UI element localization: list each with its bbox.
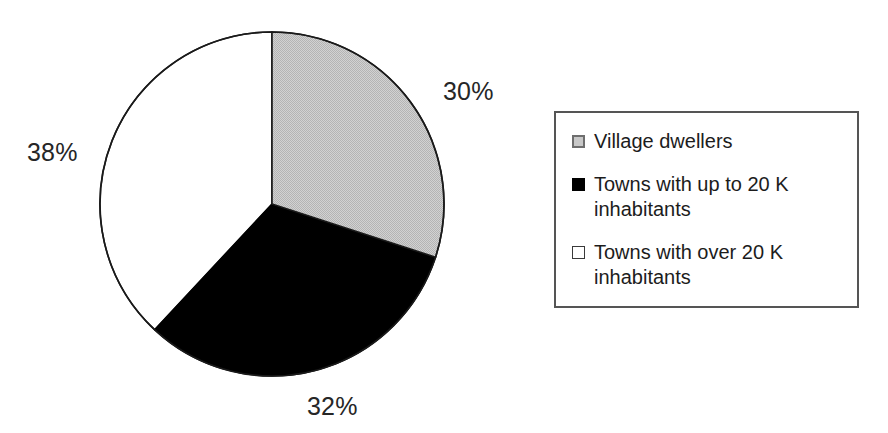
pie-chart-svg (0, 0, 520, 433)
legend-item-towns-over-20k[interactable]: Towns with over 20 K inhabitants (572, 240, 845, 291)
legend-item-towns-up-to-20k[interactable]: Towns with up to 20 K inhabitants (572, 172, 845, 223)
legend-label-towns-up-to-20k: Towns with up to 20 K inhabitants (594, 172, 844, 223)
chart-legend: Village dwellers Towns with up to 20 K i… (554, 111, 859, 308)
legend-swatch-white-icon (572, 246, 585, 259)
pie-chart-figure: 30% 38% 32% (0, 0, 520, 433)
legend-label-village-dwellers: Village dwellers (594, 129, 733, 155)
legend-label-towns-over-20k: Towns with over 20 K inhabitants (594, 240, 844, 291)
chart-page: 30% 38% 32% Village dwellers Towns with … (0, 0, 888, 433)
legend-swatch-grey-icon (572, 135, 585, 148)
pie-label-towns-over-20k: 38% (27, 138, 78, 167)
pie-label-village-dwellers: 30% (443, 77, 494, 106)
pie-label-towns-up-to-20k: 32% (307, 392, 358, 421)
legend-item-village-dwellers[interactable]: Village dwellers (572, 129, 845, 155)
legend-swatch-black-icon (572, 178, 585, 191)
